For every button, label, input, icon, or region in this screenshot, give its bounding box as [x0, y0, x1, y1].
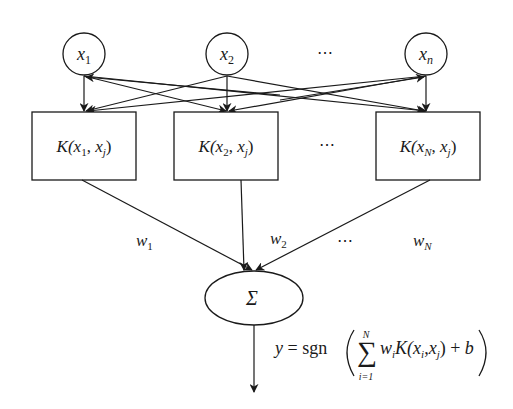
- kernel-2-prefix: K(: [198, 137, 217, 156]
- kernel-box-2: K(x2, xj): [174, 112, 278, 180]
- weight-w1-base: w: [136, 231, 148, 250]
- formula-sum-symbol: ∑: [357, 336, 377, 367]
- weight-w2-base: w: [270, 229, 282, 248]
- weight-wN-sub: N: [423, 240, 432, 252]
- svg-text:wiK(xi,xj) + b: wiK(xi,xj) + b: [380, 338, 474, 360]
- formula-sum-upper: N: [362, 329, 371, 340]
- kernel-1-prefix: K(: [56, 137, 75, 156]
- weight-w1: w1: [136, 231, 153, 252]
- input-node-x2: x2: [206, 33, 248, 75]
- kernel-ellipsis: ⋯: [319, 136, 335, 153]
- sum-node: Σ: [205, 271, 303, 325]
- formula-xi: x: [412, 338, 421, 358]
- kernel-2-sep: ,: [229, 137, 238, 156]
- formula-sum-lower: i=1: [359, 371, 374, 382]
- output-formula: y = sgn ∑ N i=1 wiK(xi,xj) + b: [273, 329, 486, 382]
- formula-left-paren: [347, 330, 354, 376]
- input-node-x1: x1: [63, 33, 105, 75]
- weight-wN: wN: [413, 231, 432, 252]
- input-xn-sub: n: [427, 53, 433, 67]
- formula-right-paren: [479, 330, 486, 376]
- weight-w2: w2: [270, 229, 287, 250]
- weight-w2-sub: 2: [281, 238, 287, 250]
- kernel-sum-connections: [82, 180, 430, 270]
- kernel-N-prefix: K(: [399, 137, 418, 156]
- formula-w: w: [380, 338, 392, 358]
- input-x1-sub: 1: [85, 53, 91, 67]
- kernel-1-sep: ,: [87, 137, 96, 156]
- input-x2-base: x: [219, 44, 228, 64]
- input-x1-base: x: [76, 44, 85, 64]
- formula-bias: b: [465, 338, 474, 358]
- weight-w1-sub: 1: [147, 240, 153, 252]
- formula-plus: +: [446, 338, 465, 358]
- kernel-2-suffix: ): [248, 137, 254, 156]
- weight-ellipsis: ⋯: [337, 232, 353, 249]
- input-x2-sub: 2: [228, 53, 234, 67]
- kernel-box-N: K(xN, xj): [376, 112, 480, 180]
- kernel-box-1: K(x1, xj): [32, 112, 136, 180]
- kernel-N-sep: ,: [432, 137, 441, 156]
- svg-text:y = sgn: y = sgn: [273, 338, 327, 358]
- formula-lhs: y: [273, 338, 283, 358]
- input-ellipsis: ⋯: [317, 44, 333, 61]
- sigma-symbol: Σ: [245, 287, 258, 309]
- formula-sgn: = sgn: [283, 338, 327, 358]
- svm-diagram: x1 x2 ⋯ xn K(x1, xj) K(x2, xj) ⋯ K(xN,: [0, 0, 513, 409]
- formula-K: K(: [394, 338, 414, 359]
- formula-xj: x: [428, 338, 437, 358]
- kernel-N-suffix: ): [451, 137, 457, 156]
- input-xn-base: x: [418, 44, 427, 64]
- input-node-xn: xn: [405, 33, 447, 75]
- weight-wN-base: w: [413, 231, 425, 250]
- kernel-1-suffix: ): [106, 137, 112, 156]
